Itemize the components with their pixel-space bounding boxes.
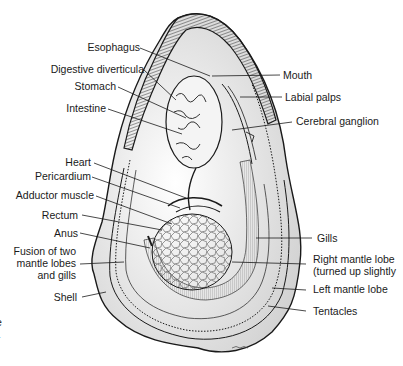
oyster-anatomy-diagram: Esophagus Digestive diverticula Stomach … [0, 0, 403, 366]
label-left-mantle-lobe: Left mantle lobe [313, 283, 388, 295]
label-esophagus: Esophagus [87, 41, 140, 53]
label-labial-palps: Labial palps [285, 91, 341, 103]
label-fusion-mantle-lobes-gills: Fusion of two mantle lobes and gills [14, 245, 76, 281]
label-anus: Anus [54, 227, 78, 239]
label-rectum: Rectum [42, 209, 78, 221]
label-pericardium: Pericardium [35, 170, 91, 182]
label-digestive-diverticula: Digestive diverticula [51, 63, 144, 75]
label-cerebral-ganglion: Cerebral ganglion [296, 115, 379, 127]
label-shell: Shell [54, 291, 77, 303]
label-heart: Heart [65, 156, 91, 168]
label-stomach: Stomach [75, 80, 116, 92]
label-gills: Gills [317, 232, 337, 244]
label-intestine: Intestine [66, 102, 106, 114]
stomach-shape [166, 76, 222, 168]
label-right-mantle-lobe: Right mantle lobe (turned up slightly [313, 253, 396, 277]
label-mouth: Mouth [283, 69, 312, 81]
label-adductor-muscle: Adductor muscle [16, 189, 94, 201]
clipped-text-fragment: e [0, 316, 2, 328]
clipped-text-fragment: - [0, 330, 1, 342]
adductor-muscle-shape [152, 214, 232, 290]
label-tentacles: Tentacles [313, 305, 357, 317]
